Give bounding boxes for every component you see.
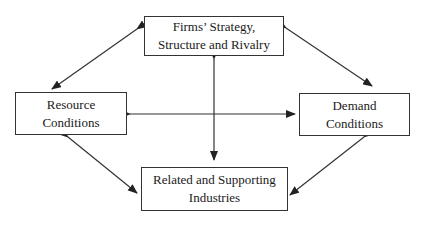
arrow-right-bottom [290,137,364,195]
node-related-supporting-industries: Related and Supporting Industries [141,167,288,211]
arrow-top-left [52,29,137,89]
node-firms-strategy: Firms’ Strategy, Structure and Rivalry [144,16,284,56]
node-resource-conditions: Resource Conditions [15,92,127,135]
node-label-line1: Demand [332,97,376,115]
node-label-line2: Conditions [326,115,383,133]
node-label-line2: Industries [189,189,240,207]
node-label-line1: Related and Supporting [153,171,276,189]
arrow-top-right [286,28,372,86]
node-label-line2: Structure and Rivalry [158,36,270,54]
node-label-line1: Resource [47,96,95,114]
node-demand-conditions: Demand Conditions [299,93,410,136]
arrow-left-bottom [68,137,137,193]
node-label-line1: Firms’ Strategy, [173,18,256,36]
node-label-line2: Conditions [42,114,99,132]
